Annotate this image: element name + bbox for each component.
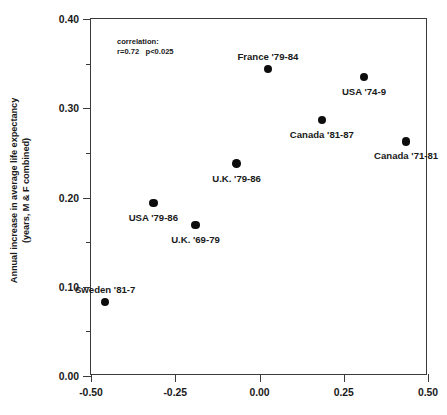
x-tick-label: 0.50 (418, 387, 438, 398)
x-tick-label: -0.25 (163, 387, 187, 398)
data-point (360, 73, 369, 82)
x-tick-mark (428, 374, 429, 382)
y-tick-mark (83, 108, 91, 109)
data-point-label: U.K. '69-79 (171, 234, 220, 245)
y-tick-mark (83, 19, 91, 20)
x-tick-label: -0.50 (79, 387, 103, 398)
y-tick-label: 0.40 (59, 14, 79, 25)
data-point (232, 159, 241, 168)
y-tick-label: 0.00 (59, 371, 79, 382)
y-tick-mark (83, 376, 91, 377)
correlation-annotation: correlation: r=0.72 p<0.025 (117, 37, 174, 57)
y-tick-mark-minor (86, 153, 91, 154)
plot-area: 0.000.100.200.300.40 -0.50-0.250.000.250… (90, 18, 427, 375)
y-axis-title-line2: (years, M & F combined) (21, 97, 33, 282)
data-point-label: France '79-84 (237, 51, 298, 62)
y-tick-mark-minor (86, 64, 91, 65)
x-tick-mark (175, 374, 176, 382)
data-point-label: U.K. '79-86 (212, 173, 261, 184)
data-point-label: Canada '71-81 (374, 150, 438, 161)
data-point-label: USA '74-9 (342, 86, 386, 97)
x-tick-mark (260, 374, 261, 382)
x-tick-mark (91, 374, 92, 382)
x-tick-label: 0.25 (334, 387, 354, 398)
data-point (101, 298, 110, 307)
y-tick-mark-minor (86, 331, 91, 332)
data-point (402, 137, 411, 146)
data-point-label: Canada '81-87 (290, 129, 354, 140)
x-tick-label: 0.00 (249, 387, 269, 398)
y-tick-label: 0.30 (59, 103, 79, 114)
x-tick-mark (344, 374, 345, 382)
data-point-label: USA '79-86 (129, 212, 178, 223)
y-tick-mark (83, 198, 91, 199)
data-point (149, 199, 158, 208)
data-point (264, 65, 273, 74)
scatter-plot-figure: Annual increase in average life expectan… (0, 0, 447, 415)
data-point (318, 116, 327, 125)
y-tick-label: 0.20 (59, 192, 79, 203)
data-point-label: Sweden '81-7 (75, 284, 135, 295)
correlation-label: correlation: (117, 37, 159, 46)
y-axis-title-line1: Annual increase in average life expectan… (10, 97, 20, 282)
data-point (191, 221, 200, 230)
y-tick-mark-minor (86, 242, 91, 243)
correlation-stats: r=0.72 p<0.025 (117, 47, 174, 56)
y-axis-title: Annual increase in average life expectan… (0, 0, 42, 380)
